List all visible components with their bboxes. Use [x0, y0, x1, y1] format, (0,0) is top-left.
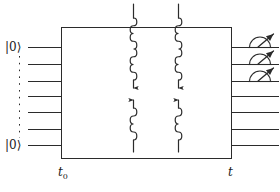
evolution-box-outline — [62, 28, 232, 159]
input-state-label-bottom: |0⟩ — [5, 139, 21, 151]
input-wires-group — [28, 48, 61, 146]
measurement-meters-group — [248, 34, 274, 82]
measurement-meter-2 — [248, 68, 274, 82]
measurement-meter-1 — [248, 51, 274, 65]
input-state-label-top: |0⟩ — [5, 41, 21, 53]
time-end-label: t — [228, 166, 233, 178]
measurement-meter-0 — [248, 34, 274, 48]
circuit-canvas — [0, 0, 280, 192]
time-start-label: t0 — [58, 166, 68, 181]
quantum-circuit-figure: |0⟩ |0⟩ t0 t — [0, 0, 280, 192]
output-wires-group — [231, 48, 279, 146]
evolution-box — [62, 28, 232, 159]
time-start-subscript: 0 — [63, 172, 68, 181]
